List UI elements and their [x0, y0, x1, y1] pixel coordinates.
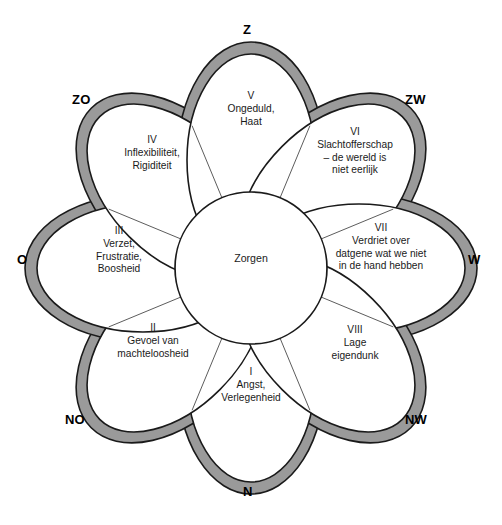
compass-label-nw: NW — [405, 412, 427, 427]
compass-label-no: NO — [65, 412, 85, 427]
petal-wheel-diagram: Zorgen I Angst,Verlegenheid II Gevoel va… — [0, 0, 502, 525]
compass-label-o: O — [17, 252, 27, 267]
compass-label-n: N — [243, 484, 253, 499]
center-hub-circle — [175, 192, 327, 344]
compass-label-zo: ZO — [72, 92, 90, 107]
compass-label-zw: ZW — [405, 92, 426, 107]
center-label: Zorgen — [201, 252, 301, 264]
compass-label-z: Z — [243, 22, 251, 37]
compass-label-w: W — [468, 252, 480, 267]
